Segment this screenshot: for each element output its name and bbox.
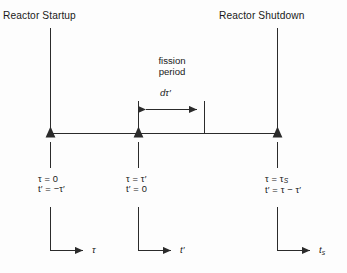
tau-axis-label: τ <box>92 245 96 256</box>
shutdown-eq-tprime: t′ = τ − τ′ <box>265 185 301 195</box>
tprime-axis-bracket <box>139 207 172 251</box>
tprime-axis-label-text: t′ <box>180 244 184 255</box>
fission-period-line2: period <box>141 66 203 77</box>
shutdown-eq-tau: τ = τS <box>265 174 301 185</box>
reactor-timeline-diagram: Reactor Startup Reactor Shutdown fission… <box>0 0 347 273</box>
ts-axis-label: ts <box>319 245 325 256</box>
startup-eq-tau: τ = 0 <box>38 174 65 184</box>
timeline-graphics <box>0 0 347 273</box>
fission-period-label: fission period <box>141 55 203 78</box>
fission-eq-tau: τ = τ′ <box>126 174 147 184</box>
tprime-axis-label: t′ <box>180 245 184 256</box>
reactor-startup-title: Reactor Startup <box>3 10 76 21</box>
shutdown-eq-tau-subscript: S <box>284 177 289 184</box>
interval-label: dτ′ <box>160 88 171 99</box>
startup-equations: τ = 0 t′ = −τ′ <box>38 174 65 195</box>
ts-axis-label-subscript: s <box>322 249 325 256</box>
shutdown-equations: τ = τS t′ = τ − τ′ <box>265 174 301 195</box>
fission-equations: τ = τ′ t′ = 0 <box>126 174 147 195</box>
event-markers <box>46 127 283 138</box>
startup-eq-tprime: t′ = −τ′ <box>38 184 65 194</box>
tau-axis-bracket <box>51 207 84 251</box>
fission-period-line1: fission <box>141 55 203 66</box>
fission-marker <box>134 127 144 138</box>
ts-axis-bracket <box>278 207 311 251</box>
fission-eq-tprime: t′ = 0 <box>126 184 147 194</box>
shutdown-eq-tau-main: τ = τ <box>265 174 284 184</box>
startup-marker <box>46 127 56 138</box>
reactor-shutdown-title: Reactor Shutdown <box>219 10 304 21</box>
shutdown-marker <box>273 127 283 138</box>
tau-axis-label-text: τ <box>92 244 96 255</box>
